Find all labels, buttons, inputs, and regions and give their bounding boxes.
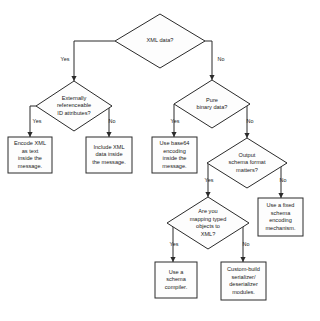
arrow-head-icon: [205, 192, 210, 197]
process-node[interactable]: Use a fixedschemaencodingmechanism.: [258, 198, 303, 236]
node-text-line: Use a fixed: [267, 202, 295, 208]
edge-label: Yes: [33, 118, 42, 124]
process-node[interactable]: Encode XMLas textinside themessage.: [8, 137, 52, 173]
node-text-line: Are you: [198, 208, 217, 214]
node-text-line: Include XML: [93, 144, 124, 150]
node-text-line: schema: [271, 210, 291, 216]
node-text-line: inside the: [18, 155, 42, 161]
node-text-line: message.: [18, 163, 43, 169]
arrow-head-icon: [171, 132, 176, 137]
edge-n1-to-n2: [71, 41, 115, 81]
arrow-head-icon: [170, 257, 175, 262]
arrow-head-icon: [27, 132, 32, 137]
node-text-line: XML data?: [147, 37, 174, 43]
decision-node[interactable]: Purebinary data?: [174, 80, 250, 128]
edge-label: Yes: [170, 241, 179, 247]
nodes-layer: XML data?ExternallyreferenceableID attri…: [8, 14, 303, 300]
node-text-line: Use base64: [160, 140, 190, 146]
node-text-line: serializer/: [232, 274, 256, 280]
node-text-line: Encode XML: [14, 140, 46, 146]
node-text-line: objects to: [196, 223, 220, 229]
arrow-head-icon: [106, 132, 111, 137]
arrow-head-icon: [209, 75, 214, 80]
arrow-head-icon: [244, 133, 249, 138]
node-text-line: the message.: [92, 159, 126, 165]
edge-label: Yes: [61, 56, 70, 62]
arrow-head-icon: [240, 257, 245, 262]
decision-node[interactable]: XML data?: [115, 14, 205, 68]
node-text-line: XML?: [201, 231, 216, 237]
edge-label: No: [243, 241, 250, 247]
flowchart-canvas: XML data?ExternallyreferenceableID attri…: [0, 0, 320, 321]
arrow-head-icon: [278, 193, 283, 198]
edge-label: Yes: [205, 177, 214, 183]
node-text-line: referenceable: [57, 102, 91, 108]
edge-n1-to-n3: [205, 41, 215, 80]
node-text-line: Output: [239, 152, 256, 158]
node-text-line: ID attributes?: [57, 110, 90, 116]
process-node[interactable]: Use base64encodinginside themessage.: [152, 137, 197, 173]
node-text-line: compiler.: [165, 284, 188, 290]
node-text-line: matters?: [236, 167, 258, 173]
process-node[interactable]: Custom-buildserializer/deserializermodul…: [221, 262, 266, 300]
flowchart-diagram: XML data?ExternallyreferenceableID attri…: [0, 0, 320, 321]
node-text-line: Use a: [169, 269, 185, 275]
node-text-line: schema: [166, 276, 186, 282]
node-text-line: binary data?: [197, 104, 228, 110]
node-text-line: schema format: [229, 159, 266, 165]
node-text-line: Custom-build: [227, 266, 260, 272]
edge-label: No: [109, 118, 116, 124]
node-text-line: mechanism.: [265, 225, 296, 231]
decision-node[interactable]: Outputschema formatmatters?: [207, 138, 287, 188]
process-node[interactable]: Use aschemacompiler.: [155, 262, 197, 298]
node-text-line: Pure: [206, 97, 218, 103]
node-text-line: inside the: [163, 155, 187, 161]
edge-label: No: [280, 177, 287, 183]
node-text-line: deserializer: [229, 281, 258, 287]
decision-node[interactable]: Are youmapping typedobjects toXML?: [167, 197, 249, 249]
node-text-line: as text: [22, 148, 39, 154]
edge-label: No: [218, 56, 225, 62]
edge-label: No: [247, 118, 254, 124]
arrow-head-icon: [71, 76, 76, 81]
node-text-line: modules.: [232, 289, 255, 295]
node-text-line: Externally: [62, 95, 87, 101]
node-text-line: data inside: [95, 151, 122, 157]
node-text-line: mapping typed: [190, 216, 227, 222]
edge-label: Yes: [171, 118, 180, 124]
node-text-line: message.: [162, 163, 187, 169]
decision-node[interactable]: ExternallyreferenceableID attributes?: [36, 81, 112, 131]
process-node[interactable]: Include XMLdata insidethe message.: [86, 137, 132, 173]
node-text-line: encoding: [269, 217, 292, 223]
node-text-line: encoding: [163, 148, 186, 154]
